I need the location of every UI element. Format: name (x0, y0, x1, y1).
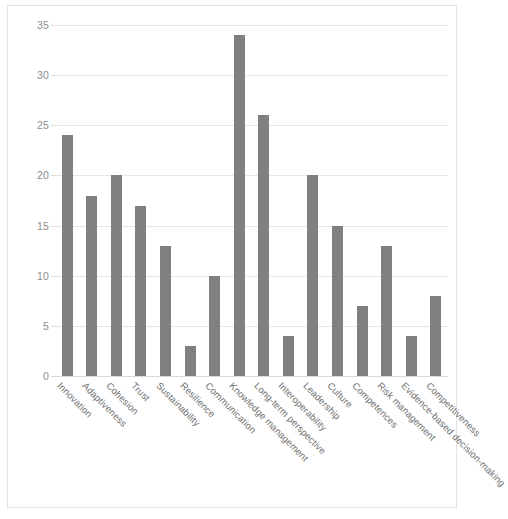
chart-frame: 05101520253035 InnovationAdaptivenessCoh… (7, 5, 457, 508)
y-tick-label: 15 (37, 220, 49, 232)
y-tick-label: 35 (37, 19, 49, 31)
bar (357, 306, 368, 376)
x-axis-labels: InnovationAdaptivenessCohesionTrustSusta… (55, 380, 448, 519)
y-tick-label: 30 (37, 69, 49, 81)
y-tick-label: 20 (37, 169, 49, 181)
x-axis-label: Evidence-based decision-making (399, 380, 507, 488)
bar (234, 35, 245, 376)
gridline-0 (55, 376, 448, 377)
y-tick-label: 0 (43, 370, 49, 382)
bar (406, 336, 417, 376)
bar (62, 135, 73, 376)
bar (283, 336, 294, 376)
y-tick-mark-0 (51, 376, 55, 377)
bar (430, 296, 441, 376)
y-tick-label: 25 (37, 119, 49, 131)
bar (258, 115, 269, 376)
plot-area: 05101520253035 (55, 25, 448, 376)
bar (160, 246, 171, 376)
bar (185, 346, 196, 376)
bar (381, 246, 392, 376)
y-tick-label: 5 (43, 320, 49, 332)
bar (209, 276, 220, 376)
bar (111, 175, 122, 376)
bar (135, 206, 146, 376)
bar (86, 196, 97, 377)
bar-series (55, 25, 448, 376)
y-tick-label: 10 (37, 270, 49, 282)
bar (332, 226, 343, 376)
bar (307, 175, 318, 376)
